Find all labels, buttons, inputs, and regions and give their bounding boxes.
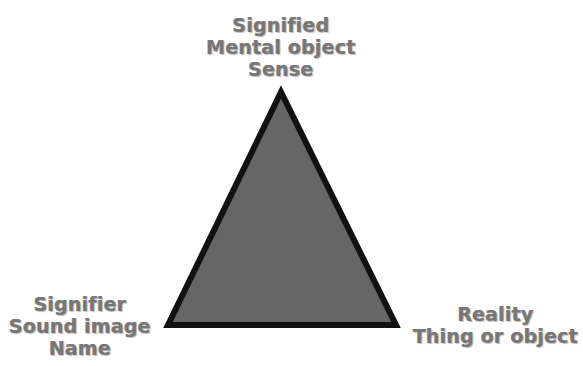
signifier-title: Signifier <box>0 293 160 315</box>
vertex-label-signified: Signified Mental object Sense <box>181 14 381 80</box>
vertex-label-signifier: Signifier Sound image Name <box>0 293 160 359</box>
triangle-shape <box>168 92 396 325</box>
reality-subtitle: Thing or object <box>408 325 583 347</box>
signified-subtitle: Mental object <box>181 36 381 58</box>
signified-term: Sense <box>181 58 381 80</box>
signifier-term: Name <box>0 337 160 359</box>
vertex-label-reality: Reality Thing or object <box>408 303 583 347</box>
signifier-subtitle: Sound image <box>0 315 160 337</box>
signified-title: Signified <box>181 14 381 36</box>
diagram-canvas: Signified Mental object Sense Signifier … <box>0 0 583 366</box>
reality-title: Reality <box>408 303 583 325</box>
